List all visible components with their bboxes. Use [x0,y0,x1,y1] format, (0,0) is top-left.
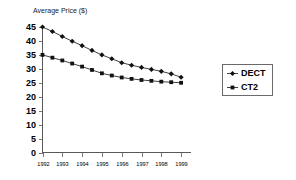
x-tick-label: 1992 [37,161,49,167]
y-tick-label: 25 [26,78,36,88]
data-point-marker [130,77,134,81]
data-point-marker [100,71,104,75]
y-tick-label: 30 [26,64,36,74]
data-point-marker [51,56,55,60]
y-tick-label: 5 [31,134,36,144]
chart-title: Average Price ($) [33,7,87,15]
y-tick-label: 20 [26,92,36,102]
data-point-marker [41,53,45,57]
x-tick-label: 1997 [136,161,148,167]
data-point-marker [169,80,173,84]
y-tick-label: 45 [26,22,36,32]
chart-container: Average Price ($) 051015202530354045 199… [0,0,296,180]
data-point-marker [231,86,235,90]
data-point-marker [179,81,183,85]
legend: DECTCT2 [223,65,273,96]
data-point-marker [70,62,74,66]
data-point-marker [110,74,114,78]
data-point-marker [150,79,154,83]
y-tick-label: 40 [26,36,36,46]
x-tick-label: 1995 [96,161,108,167]
y-tick-label: 15 [26,106,36,116]
y-tick-label: 35 [26,50,36,60]
x-tick-label: 1993 [56,161,68,167]
data-point-marker [90,68,94,72]
x-tick-label: 1994 [76,161,88,167]
y-tick-label: 0 [31,148,36,158]
data-point-marker [60,59,64,63]
data-point-marker [80,65,84,69]
x-tick-label: 1996 [116,161,128,167]
data-point-marker [159,80,163,84]
x-tick-label: 1998 [155,161,167,167]
y-tick-label: 10 [26,120,36,130]
x-tick-label: 1999 [175,161,187,167]
legend-label-ct2: CT2 [241,82,258,92]
line-chart: Average Price ($) 051015202530354045 199… [0,0,296,180]
legend-label-dect: DECT [241,68,266,78]
data-point-marker [140,78,144,82]
data-point-marker [120,76,124,80]
